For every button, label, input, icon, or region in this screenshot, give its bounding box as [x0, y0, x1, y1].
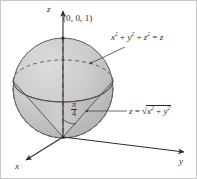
x-axis [26, 137, 63, 160]
figure-canvas [1, 1, 197, 179]
y-axis [63, 137, 184, 152]
angle-numerator: π [71, 101, 77, 109]
sphere-equation-label: x2 + y2 + z2 = z [111, 32, 163, 42]
origin-marker [62, 136, 65, 139]
z-axis-label: z [47, 5, 51, 14]
top-point-label: (0, 0, 1) [63, 14, 92, 23]
angle-label: π 4 [71, 101, 77, 119]
math-figure: z y x (0, 0, 1) x2 + y2 + z2 = z z = √x2… [0, 0, 197, 179]
angle-denominator: 4 [71, 110, 77, 118]
cone-equation-label: z = √x2 + y2 [129, 105, 171, 116]
y-axis-label: y [179, 157, 183, 166]
top-point-marker [61, 36, 64, 39]
x-axis-label: x [15, 162, 19, 171]
